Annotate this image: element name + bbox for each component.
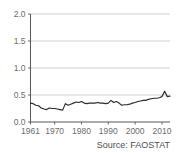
- x-tick-label: 1970: [45, 126, 64, 136]
- y-axis-tick-labels: 0.00.51.01.52.0: [14, 9, 26, 127]
- x-axis-tick-labels: 196119701980199020002010: [21, 126, 172, 136]
- data-series-line: [31, 91, 171, 110]
- chart-container: 0.00.51.01.52.0 196119701980199020002010…: [0, 0, 177, 153]
- x-tick-label: 2010: [152, 126, 171, 136]
- source-caption: Source: FAOSTAT: [97, 140, 171, 150]
- line-chart: 0.00.51.01.52.0 196119701980199020002010…: [0, 0, 177, 153]
- gridlines-group: [28, 14, 170, 122]
- y-tick-label: 0.5: [14, 90, 26, 100]
- y-tick-label: 2.0: [14, 9, 26, 19]
- x-tick-label: 1980: [72, 126, 91, 136]
- x-tick-label: 1961: [21, 126, 40, 136]
- x-tick-label: 2000: [126, 126, 145, 136]
- y-tick-label: 1.0: [14, 63, 26, 73]
- y-tick-label: 1.5: [14, 36, 26, 46]
- x-tick-label: 1990: [99, 126, 118, 136]
